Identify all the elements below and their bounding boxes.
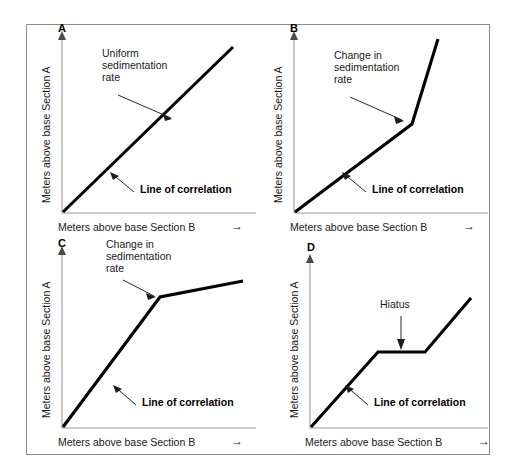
panel-a-x-axis-arrow: →	[231, 219, 243, 233]
panel-d-annotation: Hiatus	[380, 298, 410, 310]
y-axis-arrow	[58, 246, 66, 255]
panel-c-y-axis-label: Meters above base Section A	[40, 281, 52, 418]
y-axis-arrow	[306, 254, 314, 263]
panel-b-y-axis-label: Meters above base Section A	[272, 66, 284, 203]
panel-d-x-axis-label: Meters above base Section B	[305, 436, 442, 448]
panel-d-caption: Line of correlation	[374, 396, 466, 408]
panel-b: B Change in sedimentation rate Line of c…	[260, 25, 492, 240]
panel-c: C Change in sedimentation rate Line of c…	[28, 240, 260, 455]
panel-b-x-axis-label: Meters above base Section B	[290, 221, 427, 233]
panel-c-x-axis-arrow: →	[231, 434, 243, 448]
y-axis-arrow	[58, 31, 66, 40]
panel-c-x-axis-label: Meters above base Section B	[58, 436, 195, 448]
panel-a-caption: Line of correlation	[140, 183, 232, 195]
panel-b-x-axis-arrow: →	[463, 219, 475, 233]
panel-d-x-axis-arrow: →	[478, 434, 490, 448]
y-axis-arrow	[290, 31, 298, 40]
panel-c-caption: Line of correlation	[142, 396, 234, 408]
panel-d: D Hiatus Line of correlation Meters abov…	[260, 240, 492, 455]
panel-b-annotation: Change in sedimentation rate	[334, 49, 399, 86]
hiatus-arrowhead	[397, 339, 405, 350]
panel-a-x-axis-label: Meters above base Section B	[58, 221, 195, 233]
annotation-leader-c	[123, 280, 154, 296]
figure-root: A Uniform sedimentation rate Line of cor…	[0, 0, 515, 472]
panel-a: A Uniform sedimentation rate Line of cor…	[28, 25, 260, 240]
panel-b-caption: Line of correlation	[372, 183, 464, 195]
panel-a-annotation: Uniform sedimentation rate	[102, 47, 167, 84]
panel-d-y-axis-label: Meters above base Section A	[288, 281, 300, 418]
annotation-arrowhead-b	[394, 116, 404, 124]
panel-a-y-axis-label: Meters above base Section A	[40, 66, 52, 203]
panel-c-annotation: Change in sedimentation rate	[106, 238, 171, 275]
annotation-leader-a	[118, 95, 171, 118]
